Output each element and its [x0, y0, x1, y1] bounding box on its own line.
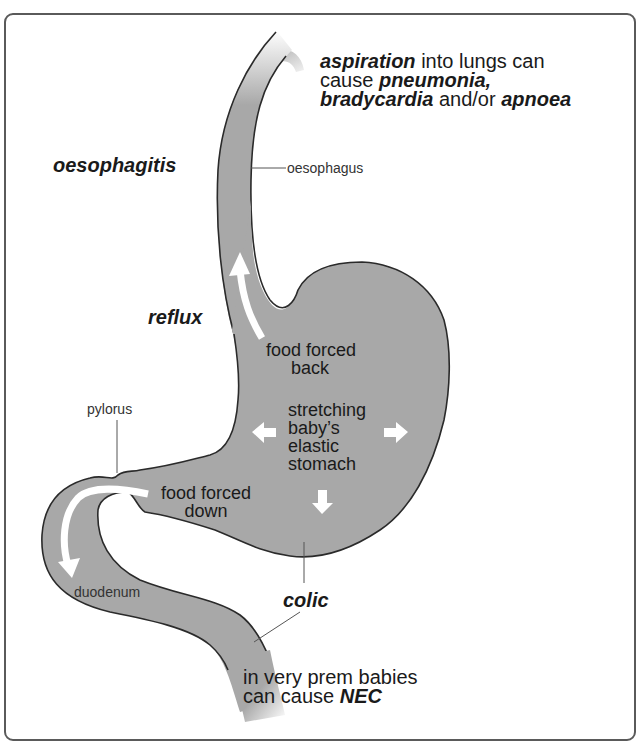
oesophagus-label: oesophagus: [287, 161, 363, 175]
duodenum-label: duodenum: [74, 585, 140, 599]
oesophagitis-label: oesophagitis: [53, 155, 176, 175]
pylorus-label: pylorus: [87, 402, 132, 416]
reflux-label: reflux: [148, 307, 202, 327]
stretching-label: stretching baby’s elastic stomach: [288, 401, 366, 473]
colic-leader-bowel: [254, 612, 300, 642]
food-forced-back-label: food forced back: [266, 341, 354, 377]
stomach-shape: [42, 200, 449, 712]
nec-label: in very prem babies can cause NEC: [243, 668, 418, 706]
colic-label: colic: [283, 590, 329, 610]
aspiration-label: aspiration into lungs can cause pneumoni…: [320, 52, 571, 109]
food-forced-down-label: food forced down: [148, 484, 264, 520]
